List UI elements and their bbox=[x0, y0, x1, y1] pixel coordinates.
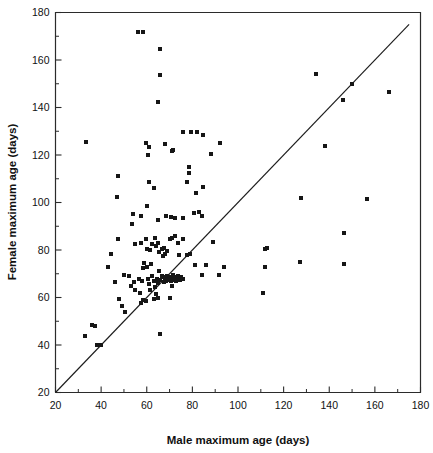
y-tick-label: 20 bbox=[38, 386, 50, 398]
data-point bbox=[127, 274, 131, 278]
data-point bbox=[158, 47, 162, 51]
data-point bbox=[177, 253, 181, 257]
data-point bbox=[185, 253, 189, 257]
data-point bbox=[189, 130, 193, 134]
data-point bbox=[195, 130, 199, 134]
y-tick-label: 100 bbox=[32, 196, 50, 208]
data-point bbox=[150, 242, 154, 246]
data-point bbox=[187, 171, 191, 175]
data-point bbox=[117, 297, 121, 301]
data-point bbox=[157, 269, 161, 273]
x-axis-tick-labels: 20406080100120140160180 bbox=[50, 399, 430, 411]
data-point bbox=[218, 141, 222, 145]
data-point bbox=[298, 260, 302, 264]
x-tick-label: 140 bbox=[320, 399, 338, 411]
data-point bbox=[192, 211, 196, 215]
x-axis-title: Male maximum age (days) bbox=[167, 434, 310, 446]
y-tick-label: 80 bbox=[38, 244, 50, 256]
data-point bbox=[123, 310, 127, 314]
data-point bbox=[84, 140, 88, 144]
data-point bbox=[350, 82, 354, 86]
data-point bbox=[133, 288, 137, 292]
data-point bbox=[173, 216, 177, 220]
data-point bbox=[187, 165, 191, 169]
data-point bbox=[342, 262, 346, 266]
data-point bbox=[197, 210, 201, 214]
data-point bbox=[130, 222, 134, 226]
x-tick-label: 40 bbox=[95, 399, 107, 411]
x-tick-label: 80 bbox=[187, 399, 199, 411]
data-point bbox=[131, 212, 135, 216]
data-point bbox=[152, 297, 156, 301]
data-point bbox=[165, 249, 169, 253]
data-point bbox=[158, 332, 162, 336]
data-point bbox=[129, 284, 133, 288]
data-point bbox=[109, 252, 113, 256]
data-point bbox=[144, 237, 148, 241]
data-point bbox=[170, 284, 174, 288]
data-point bbox=[341, 98, 345, 102]
data-point bbox=[155, 277, 159, 281]
data-point bbox=[181, 130, 185, 134]
data-point bbox=[181, 216, 185, 220]
data-point bbox=[158, 73, 162, 77]
x-tick-label: 100 bbox=[229, 399, 247, 411]
data-point bbox=[139, 241, 143, 245]
data-point bbox=[120, 304, 124, 308]
data-point bbox=[145, 265, 149, 269]
data-point bbox=[261, 291, 265, 295]
data-point bbox=[145, 204, 149, 208]
data-point bbox=[154, 244, 158, 248]
data-point bbox=[156, 218, 160, 222]
data-point bbox=[139, 214, 143, 218]
data-point bbox=[147, 145, 151, 149]
data-point bbox=[164, 214, 168, 218]
data-point bbox=[141, 266, 145, 270]
y-tick-label: 140 bbox=[32, 101, 50, 113]
data-point bbox=[387, 90, 391, 94]
data-point bbox=[139, 301, 143, 305]
x-tick-label: 160 bbox=[366, 399, 384, 411]
data-point bbox=[162, 246, 166, 250]
data-point bbox=[157, 250, 161, 254]
data-point bbox=[314, 72, 318, 76]
data-point bbox=[132, 280, 136, 284]
data-point bbox=[122, 273, 126, 277]
y-tick-label: 160 bbox=[32, 54, 50, 66]
data-point bbox=[90, 323, 94, 327]
data-point bbox=[152, 186, 156, 190]
data-point bbox=[115, 195, 119, 199]
x-tick-label: 60 bbox=[141, 399, 153, 411]
data-point bbox=[149, 262, 153, 266]
data-point bbox=[95, 343, 99, 347]
data-point bbox=[365, 197, 369, 201]
data-point bbox=[173, 234, 177, 238]
scatter-plot-figure: 20406080100120140160180 2040608010012014… bbox=[0, 0, 433, 453]
data-point bbox=[204, 263, 208, 267]
data-point bbox=[106, 265, 110, 269]
data-point bbox=[137, 277, 141, 281]
data-point bbox=[144, 299, 148, 303]
data-point bbox=[116, 237, 120, 241]
data-point bbox=[145, 247, 149, 251]
data-point bbox=[154, 292, 158, 296]
data-point bbox=[136, 30, 140, 34]
data-point bbox=[147, 282, 151, 286]
data-point bbox=[141, 30, 145, 34]
data-point bbox=[194, 191, 198, 195]
data-point bbox=[323, 144, 327, 148]
data-point bbox=[152, 279, 156, 283]
data-point bbox=[148, 288, 152, 292]
data-point bbox=[153, 236, 157, 240]
x-tick-label: 20 bbox=[50, 399, 62, 411]
data-point bbox=[113, 280, 117, 284]
data-point bbox=[193, 263, 197, 267]
data-point bbox=[209, 152, 213, 156]
x-tick-label: 180 bbox=[412, 399, 430, 411]
data-point bbox=[201, 185, 205, 189]
y-tick-label: 40 bbox=[38, 339, 50, 351]
data-point bbox=[168, 296, 172, 300]
data-point bbox=[146, 277, 150, 281]
data-point bbox=[181, 237, 185, 241]
data-point bbox=[342, 231, 346, 235]
